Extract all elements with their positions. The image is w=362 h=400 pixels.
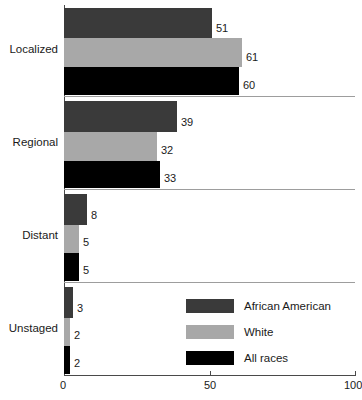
value-label-unstaged-white: 2 [74, 329, 80, 341]
bar-unstaged-african-american [64, 287, 73, 318]
value-label-localized-white: 61 [246, 51, 258, 63]
value-label-regional-african-american: 39 [181, 116, 193, 128]
bar-regional-african-american [64, 101, 177, 132]
bar-unstaged-white [64, 318, 70, 346]
value-label-regional-all-races: 33 [164, 172, 176, 184]
value-label-distant-african-american: 8 [91, 209, 97, 221]
value-label-distant-all-races: 5 [83, 264, 89, 276]
category-label-localized: Localized [9, 43, 58, 56]
legend-label-white: White [244, 325, 273, 339]
category-label-distant: Distant [22, 229, 58, 242]
value-label-unstaged-african-american: 3 [77, 302, 83, 314]
legend-label-african-american: African American [244, 299, 331, 313]
category-label-regional: Regional [13, 136, 58, 149]
bar-localized-african-american [64, 8, 212, 38]
category-label-unstaged: Unstaged [9, 322, 58, 335]
x-tick-50 [210, 371, 211, 376]
value-label-unstaged-all-races: 2 [74, 357, 80, 369]
group-separator-3 [64, 282, 355, 283]
value-label-distant-white: 5 [83, 236, 89, 248]
legend-swatch-all-races [186, 351, 234, 365]
legend-swatch-african-american [186, 299, 234, 313]
x-tick-100 [355, 371, 356, 376]
bar-distant-all-races [64, 253, 79, 281]
group-separator-1 [64, 96, 355, 97]
bar-unstaged-all-races [64, 346, 70, 374]
bar-localized-white [64, 38, 242, 67]
bar-regional-white [64, 132, 157, 161]
legend-swatch-white [186, 325, 234, 339]
legend-label-all-races: All races [244, 351, 288, 365]
x-tick-label-0: 0 [60, 379, 66, 391]
value-label-localized-african-american: 51 [216, 22, 228, 34]
x-tick-label-50: 50 [204, 379, 216, 391]
x-tick-label-100: 100 [344, 379, 362, 391]
bar-distant-african-american [64, 194, 87, 225]
bar-localized-all-races [64, 67, 239, 95]
value-label-regional-white: 32 [161, 144, 173, 156]
bar-regional-all-races [64, 161, 160, 188]
group-separator-2 [64, 189, 355, 190]
bar-distant-white [64, 225, 79, 253]
value-label-localized-all-races: 60 [243, 79, 255, 91]
